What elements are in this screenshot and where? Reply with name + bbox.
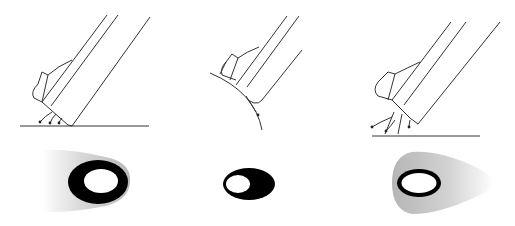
- spray-dots-left: [39, 121, 61, 125]
- spray-dot-center: [257, 114, 260, 117]
- ring-hole-left: [84, 169, 118, 193]
- ring-hole-right: [402, 173, 437, 193]
- panel-center-tool: [210, 16, 302, 130]
- panel-left-tool: [20, 15, 150, 126]
- panel-right-tool: [372, 22, 500, 136]
- diagram-canvas: [0, 0, 515, 226]
- footprint-right: [392, 152, 494, 214]
- footprint-left: [42, 150, 130, 212]
- footprint-center: [223, 168, 275, 200]
- hole-center: [226, 175, 250, 193]
- curved-surface: [210, 73, 262, 130]
